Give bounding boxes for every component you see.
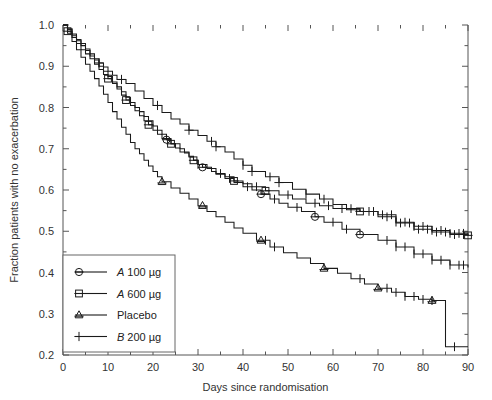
y-tick-label: 0.3 xyxy=(39,308,54,320)
y-tick-label: 0.4 xyxy=(39,267,54,279)
legend-label: A600 µg xyxy=(116,288,161,300)
curve-line xyxy=(63,25,468,235)
legend-label: A100 µg xyxy=(116,266,161,278)
x-tick-label: 70 xyxy=(372,361,384,373)
series-marker-plus xyxy=(247,167,256,176)
kaplan-meier-figure: 01020304050607080900.20.30.40.50.60.70.8… xyxy=(0,0,492,400)
curve-line xyxy=(63,25,468,268)
x-tick-label: 80 xyxy=(417,361,429,373)
x-tick-label: 40 xyxy=(237,361,249,373)
legend: A100 µgA600 µgPlaceboB200 µg xyxy=(63,255,175,352)
series-marker-plus xyxy=(184,126,193,135)
legend-label: B200 µg xyxy=(117,331,161,343)
series-marker-plus xyxy=(274,178,283,187)
y-tick-label: 0.5 xyxy=(39,225,54,237)
y-tick-label: 0.9 xyxy=(39,60,54,72)
x-tick-label: 20 xyxy=(147,361,159,373)
x-tick-label: 90 xyxy=(462,361,474,373)
plot-svg: 01020304050607080900.20.30.40.50.60.70.8… xyxy=(0,0,492,400)
series-marker-triangle xyxy=(256,236,265,243)
series-marker-plus xyxy=(211,142,220,151)
series-1 xyxy=(63,25,473,239)
y-tick-label: 0.2 xyxy=(39,349,54,361)
series-marker-plus xyxy=(153,101,162,110)
x-tick-label: 50 xyxy=(282,361,294,373)
series-marker-plus xyxy=(117,75,126,84)
legend-label: Placebo xyxy=(117,309,157,321)
series-3 xyxy=(63,25,468,238)
x-axis-title: Days since randomisation xyxy=(203,381,329,393)
x-tick-label: 10 xyxy=(102,361,114,373)
y-tick-label: 0.6 xyxy=(39,184,54,196)
series-marker-triangle xyxy=(198,201,207,208)
x-tick-label: 30 xyxy=(192,361,204,373)
y-axis-title: Fraction patients with no exacerbation xyxy=(8,97,20,282)
x-tick-label: 0 xyxy=(60,361,66,373)
y-tick-label: 0.7 xyxy=(39,143,54,155)
y-tick-label: 1.0 xyxy=(39,19,54,31)
curve-line xyxy=(63,25,468,235)
series-0 xyxy=(63,25,468,269)
x-tick-label: 60 xyxy=(327,361,339,373)
y-tick-label: 0.8 xyxy=(39,102,54,114)
